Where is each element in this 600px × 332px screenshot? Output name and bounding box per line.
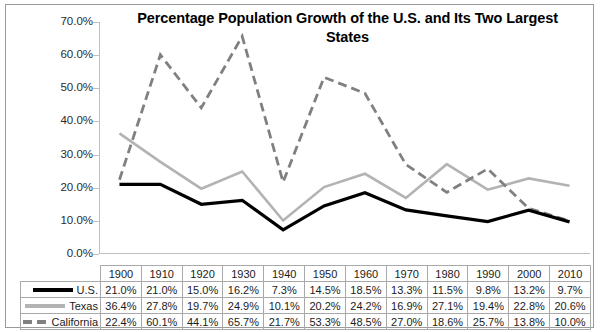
legend-entry-california: California bbox=[21, 314, 101, 330]
table-cell-value: 19.4% bbox=[468, 298, 509, 314]
series-line-us bbox=[119, 184, 569, 229]
table-cell-value: 21.0% bbox=[141, 282, 182, 298]
legend-swatch-icon bbox=[25, 301, 65, 311]
table-cell-value: 16.9% bbox=[386, 298, 427, 314]
table-cell-value: 24.2% bbox=[345, 298, 386, 314]
table-cell-value: 7.3% bbox=[264, 282, 305, 298]
table-cell-value: 10.1% bbox=[264, 298, 305, 314]
table-column-header-year: 1950 bbox=[305, 266, 346, 282]
table-column-header-year: 1990 bbox=[468, 266, 509, 282]
table-cell-value: 36.4% bbox=[101, 298, 142, 314]
table-cell-value: 20.6% bbox=[550, 298, 591, 314]
series-line-california bbox=[119, 36, 569, 221]
table-cell-value: 14.5% bbox=[305, 282, 346, 298]
table-cell-value: 19.7% bbox=[182, 298, 223, 314]
table-cell-value: 9.7% bbox=[550, 282, 591, 298]
table-cell-value: 13.2% bbox=[509, 282, 550, 298]
table-cell-value: 27.0% bbox=[386, 314, 427, 330]
series-line-texas bbox=[119, 133, 569, 220]
legend-label: California bbox=[52, 316, 98, 328]
table-header-row: 1900191019201930194019501960197019801990… bbox=[21, 266, 591, 282]
table-row: Texas36.4%27.8%19.7%24.9%10.1%20.2%24.2%… bbox=[21, 298, 591, 314]
table-column-header-year: 1930 bbox=[223, 266, 264, 282]
table-cell-value: 21.7% bbox=[264, 314, 305, 330]
data-table: 1900191019201930194019501960197019801990… bbox=[20, 265, 591, 330]
table-cell-value: 16.2% bbox=[223, 282, 264, 298]
table-cell-value: 21.0% bbox=[101, 282, 142, 298]
legend-label: Texas bbox=[69, 300, 98, 312]
table-row: U.S.21.0%21.0%15.0%16.2%7.3%14.5%18.5%13… bbox=[21, 282, 591, 298]
table-column-header-year: 1960 bbox=[345, 266, 386, 282]
table-column-header-year: 1920 bbox=[182, 266, 223, 282]
table-cell-value: 25.7% bbox=[468, 314, 509, 330]
table-cell-value: 10.0% bbox=[550, 314, 591, 330]
table-cell-value: 22.8% bbox=[509, 298, 550, 314]
legend-entry-texas: Texas bbox=[21, 298, 101, 314]
table-column-header-year: 1970 bbox=[386, 266, 427, 282]
table-column-header-year: 2000 bbox=[509, 266, 550, 282]
legend-swatch-icon bbox=[23, 317, 48, 327]
table-cell-value: 24.9% bbox=[223, 298, 264, 314]
table-cell-value: 18.6% bbox=[427, 314, 468, 330]
table-cell-value: 9.8% bbox=[468, 282, 509, 298]
table-cell-value: 22.4% bbox=[101, 314, 142, 330]
table-cell-value: 53.3% bbox=[305, 314, 346, 330]
table-cell-value: 11.5% bbox=[427, 282, 468, 298]
table-cell-value: 20.2% bbox=[305, 298, 346, 314]
table-cell-value: 60.1% bbox=[141, 314, 182, 330]
table-column-header-year: 1900 bbox=[101, 266, 142, 282]
table-cell-value: 48.5% bbox=[345, 314, 386, 330]
table-column-header-year: 1980 bbox=[427, 266, 468, 282]
table-cell-value: 27.1% bbox=[427, 298, 468, 314]
table-cell-value: 15.0% bbox=[182, 282, 223, 298]
legend-entry-us: U.S. bbox=[21, 282, 101, 298]
table-row: California22.4%60.1%44.1%65.7%21.7%53.3%… bbox=[21, 314, 591, 330]
legend-swatch-icon bbox=[33, 285, 73, 295]
table-cell-value: 65.7% bbox=[223, 314, 264, 330]
table-cell-value: 13.3% bbox=[386, 282, 427, 298]
table-cell-value: 13.8% bbox=[509, 314, 550, 330]
table-cell-value: 18.5% bbox=[345, 282, 386, 298]
table-column-header-year: 1910 bbox=[141, 266, 182, 282]
table-cell-value: 44.1% bbox=[182, 314, 223, 330]
table-cell-value: 27.8% bbox=[141, 298, 182, 314]
chart-container: Percentage Population Growth of the U.S.… bbox=[0, 0, 600, 332]
table-column-header-year: 1940 bbox=[264, 266, 305, 282]
table-corner-cell bbox=[21, 266, 101, 282]
legend-label: U.S. bbox=[77, 284, 98, 296]
table-column-header-year: 2010 bbox=[550, 266, 591, 282]
